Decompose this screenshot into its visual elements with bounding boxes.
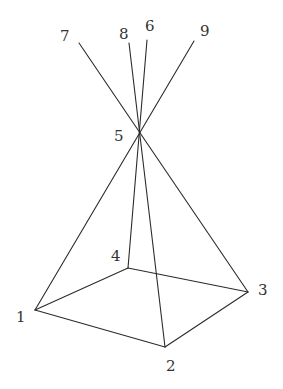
vertex-label-5: 5 [114, 127, 124, 145]
diagram-canvas: 1 2 3 4 5 6 7 8 9 [0, 0, 283, 389]
vertex-label-2: 2 [166, 357, 176, 375]
vertex-label-6: 6 [145, 17, 155, 35]
labels-group: 1 2 3 4 5 6 7 8 9 [16, 17, 268, 375]
vertex-label-8: 8 [119, 25, 129, 43]
edges-group [35, 40, 248, 347]
vertex-label-9: 9 [200, 22, 210, 40]
edge-3-7 [79, 43, 248, 292]
edge-3-4 [128, 268, 248, 292]
edge-2-3 [165, 292, 248, 347]
vertex-label-3: 3 [258, 281, 268, 299]
pyramid-diagram: 1 2 3 4 5 6 7 8 9 [0, 0, 283, 389]
vertex-label-1: 1 [16, 308, 26, 326]
edge-4-6 [128, 40, 147, 268]
vertex-label-7: 7 [60, 27, 70, 45]
edge-1-9 [35, 41, 194, 310]
edge-4-1 [35, 268, 128, 310]
vertex-label-4: 4 [111, 247, 121, 265]
edge-1-2 [35, 310, 165, 347]
